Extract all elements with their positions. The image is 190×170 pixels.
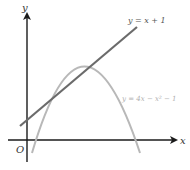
linear-line (20, 27, 137, 126)
y-axis-label: y (21, 2, 28, 13)
graph-canvas: y x O y = x + 1 y = 4x − x² − 1 (0, 0, 190, 170)
origin-label: O (16, 144, 24, 155)
curve-equation-label: y = 4x − x² − 1 (121, 95, 177, 103)
x-axis-label: x (180, 135, 186, 146)
line-equation-label: y = x + 1 (127, 16, 166, 25)
